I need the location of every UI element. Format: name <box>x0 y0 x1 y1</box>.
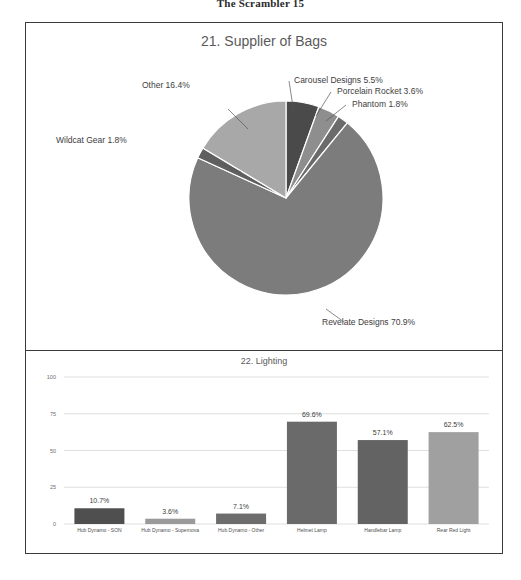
pie-label-other: Other 16.4% <box>142 80 190 90</box>
bar <box>145 519 195 524</box>
bar <box>358 440 408 524</box>
bar-value-label: 69.6% <box>282 411 342 418</box>
x-axis-category-label: Helmet Lamp <box>277 527 347 533</box>
y-axis-tick-label: 100 <box>34 374 56 380</box>
pie-chart-area: Carousel Designs 5.5% Porcelain Rocket 3… <box>26 23 504 351</box>
bar-value-label: 7.1% <box>211 503 271 510</box>
x-axis-category-label: Hub Dynamo - SON <box>64 527 134 533</box>
pie-label-wildcat-gear: Wildcat Gear 1.8% <box>56 135 127 145</box>
pie-label-carousel-designs: Carousel Designs 5.5% <box>294 75 383 85</box>
bar <box>287 422 337 524</box>
pie-slices <box>189 101 383 295</box>
pie-chart-svg <box>26 23 504 351</box>
pie-chart-panel: 21. Supplier of Bags Carousel Designs 5.… <box>25 22 503 350</box>
x-axis-category-label: Handlebar Lamp <box>348 527 418 533</box>
pie-label-porcelain-rocket: Porcelain Rocket 3.6% <box>337 86 423 96</box>
x-axis-category-label: Rear Red Light <box>419 527 489 533</box>
pie-label-phantom: Phantom 1.8% <box>352 99 408 109</box>
x-axis-category-label: Hub Dynamo - Other <box>206 527 276 533</box>
bar-value-label: 3.6% <box>140 508 200 515</box>
bar-series <box>74 422 478 524</box>
page-header: The Scrambler 15 <box>0 0 521 9</box>
bar <box>216 514 266 524</box>
page-root: The Scrambler 15 21. Supplier of Bags Ca… <box>0 0 521 580</box>
bar-value-label: 10.7% <box>69 497 129 504</box>
bar-chart-svg <box>26 351 504 555</box>
y-axis-tick-label: 0 <box>34 521 56 527</box>
bar-value-label: 62.5% <box>424 421 484 428</box>
bar <box>429 432 479 524</box>
bar-chart-area: 0255075100 Hub Dynamo - SONHub Dynamo - … <box>26 351 504 555</box>
x-axis-category-label: Hub Dynamo - Supernova <box>135 527 205 533</box>
y-axis-tick-label: 75 <box>34 411 56 417</box>
pie-label-revelate-designs: Revelate Designs 70.9% <box>322 317 415 327</box>
bar <box>74 508 124 524</box>
y-axis-tick-label: 50 <box>34 448 56 454</box>
y-axis-tick-label: 25 <box>34 484 56 490</box>
bar-chart-panel: 22. Lighting 0255075100 Hub Dynamo - SON… <box>25 350 503 554</box>
bar-value-label: 57.1% <box>353 429 413 436</box>
